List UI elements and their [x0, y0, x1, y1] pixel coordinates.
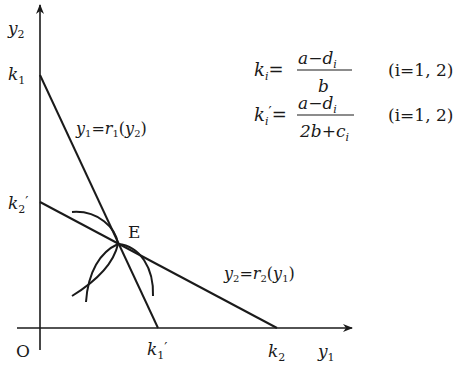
k2-prime-label: k2′: [8, 193, 29, 216]
equilibrium-label: E: [128, 222, 140, 242]
formula-k-prime-condition: (i=1, 2): [388, 105, 453, 125]
formula-k-prime: ki′= a−di 2b+ci (i=1, 2): [254, 93, 453, 144]
r2-curve-label: y2=r2(y1): [223, 264, 295, 284]
formula-k-prime-numerator: a−di: [298, 93, 337, 116]
origin-label: O: [16, 341, 30, 361]
r1-curve-label: y1=r1(y2): [75, 119, 147, 139]
formula-k-numerator: a−di: [298, 48, 337, 71]
formula-k: ki= a−di b (i=1, 2): [254, 48, 453, 96]
svg-text:ki=: ki=: [254, 59, 284, 83]
formula-k-prime-denominator: 2b+ci: [299, 121, 349, 144]
x-axis-label: y1: [317, 341, 335, 364]
formula-k-condition: (i=1, 2): [388, 60, 453, 80]
reaction-function-diagram: y2 y1 O k1 k2′ k1′ k2 E y1=r1(y2) y2=r2(…: [0, 0, 476, 377]
reaction-line-r1: [40, 75, 158, 328]
y-axis-label: y2: [7, 18, 25, 41]
isoprofit-arc-lower-left-a: [72, 244, 118, 296]
svg-text:ki′=: ki′=: [254, 104, 287, 128]
k2-label: k2: [268, 341, 285, 364]
k1-prime-label: k1′: [147, 339, 168, 362]
k1-label: k1: [8, 64, 25, 87]
